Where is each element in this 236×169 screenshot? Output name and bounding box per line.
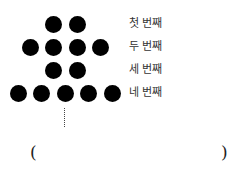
continuation-dots: [64, 108, 65, 127]
dot: [80, 85, 97, 102]
row-label-3: 세 번째: [129, 63, 163, 77]
dot: [69, 39, 86, 56]
row-label-2: 두 번째: [129, 40, 163, 54]
dot: [69, 16, 86, 33]
dot: [33, 85, 50, 102]
dot: [10, 85, 27, 102]
dot: [92, 39, 109, 56]
row-label-1: 첫 번째: [129, 17, 163, 31]
row-label-4: 네 번째: [129, 86, 163, 100]
dot: [57, 85, 74, 102]
close-paren: ): [221, 142, 228, 162]
dot: [104, 85, 121, 102]
dot: [45, 39, 62, 56]
dot: [45, 62, 62, 79]
dot: [45, 16, 62, 33]
open-paren: (: [30, 142, 37, 162]
dot: [22, 39, 39, 56]
dot: [69, 62, 86, 79]
